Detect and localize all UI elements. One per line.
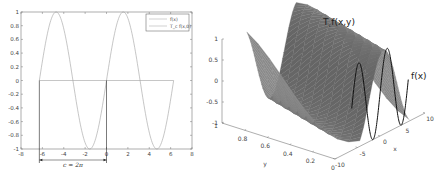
y-tick-label: 0.4 xyxy=(10,50,19,56)
y-tick-mark xyxy=(267,137,269,138)
y-tick-label: 1 xyxy=(16,9,20,15)
x-tick-label: 10 xyxy=(426,115,434,122)
x-tick-mark xyxy=(423,112,425,113)
annotation-c-equals-2pi: c = 2π xyxy=(63,161,84,168)
y-tick-label: 0 xyxy=(16,78,20,84)
legend: f(x) T_c f(x,0) xyxy=(146,14,191,31)
surface-title: Tcf(x,y) xyxy=(322,17,355,28)
x-tick-label: 5 xyxy=(406,127,410,134)
x-tick-label: 8 xyxy=(190,151,194,157)
x-tick-label: -6 xyxy=(40,151,46,157)
z-tick-label: 0 xyxy=(214,77,218,84)
x-tick-label: 2 xyxy=(126,151,130,157)
z-tick-label: 1 xyxy=(214,35,218,42)
x-tick-label: -10 xyxy=(335,161,345,168)
title-rest: f(x,y) xyxy=(331,17,355,27)
y-tick-label: -0.8 xyxy=(8,132,19,138)
z-tick-label: -0.5 xyxy=(206,98,218,105)
y-tick-label: 0.6 xyxy=(260,142,270,149)
y-tick-mark xyxy=(312,151,314,152)
z-tick-label: 0.5 xyxy=(208,56,218,63)
y-tick-label: -0.4 xyxy=(8,105,19,111)
y-tick-label: 0 xyxy=(331,164,335,171)
y-tick-label: 0.2 xyxy=(306,157,316,164)
y-tick-label: 0.4 xyxy=(283,150,293,157)
x-tick-label: -2 xyxy=(82,151,87,157)
y-tick-label: -0.6 xyxy=(8,119,19,125)
figure: -8-6-4-202468 -1-0.8-0.6-0.4-0.200.20.40… xyxy=(0,0,445,179)
x-tick-label: 4 xyxy=(148,151,152,157)
y-tick-label: -0.2 xyxy=(8,91,19,97)
x-tick-label: -8 xyxy=(18,151,24,157)
y-tick-mark xyxy=(335,158,337,159)
x-tick-mark xyxy=(378,135,380,136)
y-axis-label: y xyxy=(263,160,267,168)
x-tick-label: 0 xyxy=(383,138,387,145)
y-tick-label: 0.8 xyxy=(10,23,19,29)
y-tick-mark xyxy=(245,129,247,130)
line-chart: -8-6-4-202468 -1-0.8-0.6-0.4-0.200.20.40… xyxy=(8,9,194,168)
surface-patch xyxy=(295,3,308,6)
x-tick-label: -4 xyxy=(61,151,67,157)
legend-label-f-x: f(x) xyxy=(170,17,178,22)
x-tick-label: -5 xyxy=(360,150,366,157)
y-tick-label: 0.8 xyxy=(238,135,248,142)
x-tick-label: 6 xyxy=(169,151,173,157)
x-tick-mark xyxy=(333,158,335,159)
y-tick-label: -1 xyxy=(14,146,19,152)
y-tick-mark xyxy=(290,144,292,145)
y-tick-label: 0.6 xyxy=(10,36,19,42)
curve-label-f-x: f(x) xyxy=(411,71,427,81)
surface-chart: -10-5051000.20.40.60.81-1-0.500.51 Tcf(x… xyxy=(206,3,434,172)
x-tick-mark xyxy=(356,147,358,148)
z-tick-label: -1 xyxy=(212,119,218,126)
y-tick-label: 0.2 xyxy=(10,64,19,70)
x-axis-label: x xyxy=(393,145,397,152)
